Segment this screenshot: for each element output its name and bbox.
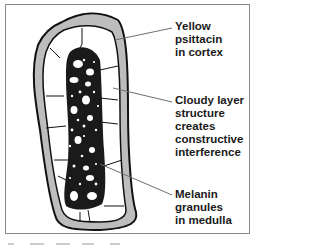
label-medulla: Melanin granules in medulla [175,188,232,227]
label-cloudy-layer: Cloudy layer structure creates construct… [175,94,244,159]
medulla [64,47,105,209]
label-cortex: Yellow psittacin in cortex [175,20,223,59]
